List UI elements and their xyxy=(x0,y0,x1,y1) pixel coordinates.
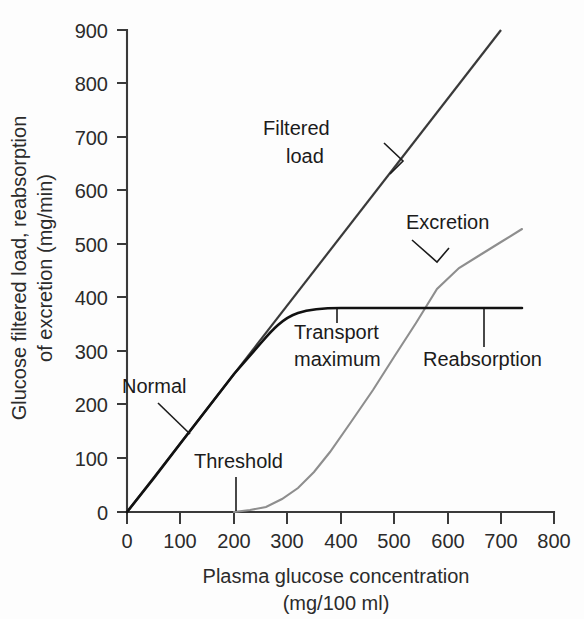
y-tick-label-200: 200 xyxy=(75,394,108,416)
annotation-filtered-load: Filtered load xyxy=(263,117,403,174)
annotation-transport-maximum: Transport maximum xyxy=(294,309,381,370)
y-tick-label-800: 800 xyxy=(75,73,108,95)
annotation-reabsorption-label: Reabsorption xyxy=(423,348,542,370)
x-axis-ticks: 0 100 200 300 400 500 600 700 800 xyxy=(121,512,570,552)
y-tick-label-700: 700 xyxy=(75,127,108,149)
x-tick-label-400: 400 xyxy=(324,530,357,552)
x-axis-title-line1: Plasma glucose concentration xyxy=(203,565,470,587)
y-axis-ticks: 900 800 700 600 500 400 300 200 100 0 xyxy=(75,20,127,524)
x-axis-title: Plasma glucose concentration (mg/100 ml) xyxy=(203,565,470,614)
annotation-normal-label: Normal xyxy=(122,375,186,397)
annotation-transport-maximum-line1: Transport xyxy=(294,321,379,343)
annotation-excretion-leader xyxy=(412,240,449,262)
x-tick-label-600: 600 xyxy=(431,530,464,552)
annotation-transport-maximum-line2: maximum xyxy=(294,348,381,370)
y-tick-label-100: 100 xyxy=(75,448,108,470)
y-tick-label-0: 0 xyxy=(97,502,108,524)
x-tick-label-100: 100 xyxy=(163,530,196,552)
y-tick-label-900: 900 xyxy=(75,20,108,42)
y-tick-label-400: 400 xyxy=(75,287,108,309)
annotation-reabsorption: Reabsorption xyxy=(423,309,542,370)
annotation-excretion-label: Excretion xyxy=(406,211,489,233)
x-tick-label-500: 500 xyxy=(377,530,410,552)
annotation-filtered-load-line2: load xyxy=(286,145,324,167)
x-tick-label-300: 300 xyxy=(270,530,303,552)
x-tick-label-0: 0 xyxy=(121,530,132,552)
y-axis-title-line2: of excretion (mg/min) xyxy=(34,174,56,362)
annotation-threshold-label: Threshold xyxy=(194,450,283,472)
y-axis-title-line1: Glucose filtered load, reabsorption xyxy=(8,116,30,421)
annotation-filtered-load-line1: Filtered xyxy=(263,117,330,139)
annotation-excretion: Excretion xyxy=(406,211,489,262)
glucose-transport-chart-figure: Glucose filtered load, reabsorption of e… xyxy=(0,0,584,619)
annotation-normal: Normal xyxy=(122,375,190,434)
y-tick-label-500: 500 xyxy=(75,234,108,256)
chart-canvas: Glucose filtered load, reabsorption of e… xyxy=(0,0,584,619)
annotation-normal-leader xyxy=(158,403,190,434)
y-tick-label-600: 600 xyxy=(75,180,108,202)
y-tick-label-300: 300 xyxy=(75,341,108,363)
y-axis-title: Glucose filtered load, reabsorption of e… xyxy=(8,116,56,421)
x-tick-label-700: 700 xyxy=(484,530,517,552)
x-tick-label-200: 200 xyxy=(217,530,250,552)
annotation-threshold: Threshold xyxy=(194,450,283,511)
x-axis-title-line2: (mg/100 ml) xyxy=(283,592,390,614)
x-tick-label-800: 800 xyxy=(537,530,570,552)
